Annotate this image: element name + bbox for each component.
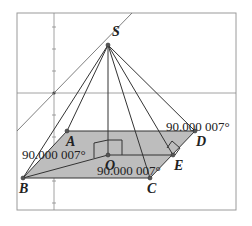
vertex-label-E: E [173, 158, 183, 173]
vertex-S[interactable] [106, 43, 110, 47]
coordinate-axes [17, 13, 236, 210]
diagram-canvas: SABCDEO 90.000 007°90.000 007°90.000 007… [0, 0, 252, 226]
angle-measure-D: 90.000 007° [166, 119, 230, 134]
edge-SA [67, 45, 108, 131]
vertex-A[interactable] [65, 129, 69, 133]
frame-border [17, 13, 236, 210]
angle-measure-A: 90.000 007° [22, 147, 86, 162]
vertex-O[interactable] [106, 153, 110, 157]
vertex-label-C: C [147, 181, 157, 196]
pyramid-diagram: SABCDEO 90.000 007°90.000 007°90.000 007… [0, 0, 252, 226]
vertex-label-S: S [112, 24, 120, 39]
frame [17, 13, 236, 210]
vertex-label-B: B [18, 181, 28, 196]
vertex-B[interactable] [21, 176, 25, 180]
vertex-E[interactable] [171, 153, 175, 157]
vertex-label-D: D [195, 134, 206, 149]
angle-measure-C: 90.000 007° [97, 163, 161, 178]
